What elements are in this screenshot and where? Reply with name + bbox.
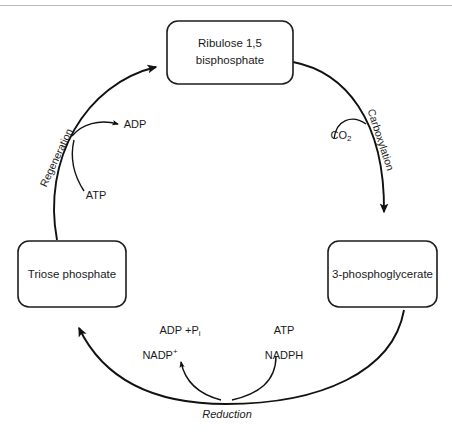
stage-label-reduction: Reduction — [202, 408, 252, 420]
node-triose-label: Triose phosphate — [28, 268, 116, 280]
molecule-adp-pi-base: ADP +P — [159, 324, 198, 336]
molecule-co2-sub: 2 — [347, 134, 352, 143]
molecule-atp-regeneration-base: ATP — [86, 189, 107, 201]
molecule-nadph: NADPH — [265, 349, 304, 361]
calvin-cycle-diagram: Ribulose 1,5 bisphosphate 3-phosphoglyce… — [0, 0, 452, 433]
molecule-atp-reduction: ATP — [274, 324, 295, 336]
node-triose-phosphate[interactable]: Triose phosphate — [18, 241, 126, 307]
molecule-nadph-base: NADPH — [265, 349, 304, 361]
arc-nadp-output — [181, 362, 221, 400]
arc-reduction — [79, 310, 404, 404]
molecule-co2: CO2 — [331, 129, 353, 143]
diagram-canvas: Ribulose 1,5 bisphosphate 3-phosphoglyce… — [0, 0, 452, 433]
node-ribulose-box[interactable] — [167, 21, 293, 84]
node-ribulose-label-line1: Ribulose 1,5 — [198, 37, 262, 49]
arc-adp-output — [72, 122, 118, 136]
molecule-nadp-plus-sup: + — [173, 347, 178, 356]
molecule-atp-reduction-base: ATP — [274, 324, 295, 336]
molecule-adp-regeneration: ADP — [124, 118, 147, 130]
stage-label-carboxylation: Carboxylation — [366, 107, 397, 172]
node-ribulose-label-line2: bisphosphate — [196, 54, 264, 66]
molecule-adp-pi: ADP +Pi — [159, 324, 200, 338]
molecule-adp-pi-sub: i — [199, 329, 201, 338]
molecule-atp-regeneration: ATP — [86, 189, 107, 201]
molecule-nadp-plus-base: NADP — [142, 349, 173, 361]
node-phosphoglycerate-label: 3-phosphoglycerate — [332, 268, 433, 280]
arc-nadph-input — [232, 356, 276, 400]
node-3-phosphoglycerate[interactable]: 3-phosphoglycerate — [328, 241, 437, 307]
node-ribulose-bisphosphate[interactable]: Ribulose 1,5 bisphosphate — [167, 21, 293, 84]
arc-atp-input — [72, 140, 84, 191]
molecule-nadp-plus: NADP+ — [142, 347, 178, 361]
molecule-co2-base: CO — [331, 129, 348, 141]
arc-regeneration — [54, 67, 156, 240]
molecule-adp-regeneration-base: ADP — [124, 118, 147, 130]
